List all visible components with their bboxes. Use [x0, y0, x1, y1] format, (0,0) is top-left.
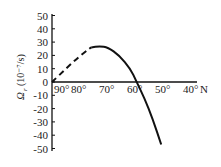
y-tick-label: 20	[37, 49, 49, 61]
x-tick-label: 90°	[54, 83, 69, 95]
x-axis: 90°80°70°60°50°40° N	[52, 82, 208, 95]
y-tick-label: -10	[33, 89, 48, 101]
y-tick-label: 30	[37, 36, 49, 48]
dashed-curve	[52, 47, 91, 82]
x-tick-label: 70°	[99, 83, 114, 95]
y-tick-label: 10	[37, 63, 49, 75]
x-tick-label: 50°	[155, 83, 170, 95]
data-series	[52, 46, 161, 144]
ylabel-symbol: Ω	[14, 92, 26, 100]
y-tick-label: 50	[37, 10, 49, 22]
y-tick-label: -30	[33, 116, 48, 128]
y-tick-label: -50	[33, 143, 48, 155]
solid-curve	[91, 46, 161, 144]
y-tick-label: 40	[37, 23, 49, 35]
y-axis-label: Ω r (10⁻⁷/s)	[14, 54, 29, 100]
y-tick-label: -40	[33, 129, 48, 141]
x-tick-label: 80°	[71, 83, 86, 95]
ylabel-units: (10⁻⁷/s)	[15, 54, 27, 86]
chart: 50403020100-10-20-30-40-50 90°80°70°60°5…	[0, 0, 221, 167]
y-tick-label: 0	[43, 76, 49, 88]
x-tick-label: 40°	[183, 83, 198, 95]
y-tick-label: -20	[33, 103, 48, 115]
x-unit-label: N	[200, 83, 208, 95]
ylabel-subscript: r	[21, 88, 29, 91]
y-axis: 50403020100-10-20-30-40-50	[33, 10, 55, 155]
